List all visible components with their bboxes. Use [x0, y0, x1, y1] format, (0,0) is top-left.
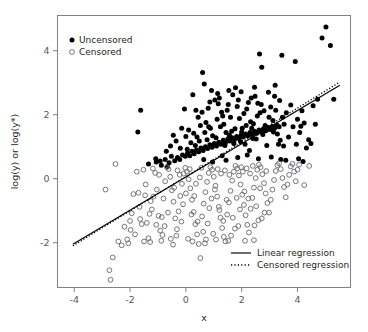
uncensored-point	[249, 96, 254, 101]
uncensored-point	[298, 124, 303, 129]
uncensored-point	[259, 65, 264, 70]
uncensored-point	[215, 117, 220, 122]
uncensored-point	[293, 59, 298, 64]
uncensored-point	[203, 120, 208, 125]
uncensored-point	[193, 108, 198, 113]
uncensored-point	[179, 126, 184, 131]
uncensored-point	[226, 88, 231, 93]
uncensored-point	[182, 106, 187, 111]
uncensored-point	[164, 149, 169, 154]
uncensored-point	[200, 70, 205, 75]
uncensored-point	[220, 113, 225, 118]
uncensored-point	[187, 153, 192, 158]
legend-line-label: Linear regression	[257, 248, 335, 258]
scatter-plot-figure: -4-2024420-2 UncensoredCensored Linear r…	[0, 0, 368, 332]
x-tick-label: -2	[125, 294, 134, 305]
uncensored-point	[291, 124, 296, 129]
uncensored-point	[225, 108, 230, 113]
uncensored-point	[245, 153, 250, 158]
uncensored-point	[279, 53, 284, 58]
uncensored-point	[193, 143, 198, 148]
uncensored-point	[216, 101, 221, 106]
uncensored-point	[168, 144, 173, 149]
x-tick-label: -4	[70, 294, 79, 305]
uncensored-point	[201, 157, 206, 162]
uncensored-point	[215, 91, 220, 96]
uncensored-point	[254, 137, 259, 142]
uncensored-point	[297, 130, 302, 135]
uncensored-point	[331, 97, 336, 102]
y-tick-label: 2	[43, 109, 49, 120]
uncensored-point	[163, 157, 168, 162]
uncensored-point	[257, 51, 262, 56]
y-tick-label: 4	[43, 45, 49, 56]
y-tick-label: -2	[40, 237, 49, 248]
uncensored-point	[214, 135, 219, 140]
uncensored-point	[209, 88, 214, 93]
x-tick-label: 0	[183, 294, 189, 305]
uncensored-point	[217, 96, 222, 101]
uncensored-point	[178, 146, 183, 151]
uncensored-point	[266, 90, 271, 95]
uncensored-point	[224, 158, 229, 163]
uncensored-point	[273, 108, 278, 113]
uncensored-point	[282, 122, 287, 127]
uncensored-point	[269, 154, 274, 159]
uncensored-point	[229, 129, 234, 134]
uncensored-point	[135, 129, 140, 134]
plot-canvas: -4-2024420-2 UncensoredCensored Linear r…	[0, 0, 368, 332]
uncensored-point	[202, 130, 207, 135]
uncensored-point	[249, 126, 254, 131]
uncensored-point	[207, 99, 212, 104]
uncensored-point	[202, 81, 207, 86]
uncensored-point	[277, 124, 282, 129]
x-tick-label: 2	[239, 294, 245, 305]
uncensored-point	[200, 110, 205, 115]
uncensored-point	[206, 106, 211, 111]
uncensored-point	[212, 97, 217, 102]
uncensored-point	[273, 83, 278, 88]
uncensored-point	[226, 102, 231, 107]
uncensored-point	[294, 142, 299, 147]
uncensored-point	[230, 92, 235, 97]
legend-marker-label: Censored	[79, 47, 121, 57]
uncensored-point	[264, 143, 269, 148]
uncensored-point	[237, 116, 242, 121]
uncensored-point	[174, 138, 179, 143]
uncensored-point	[281, 144, 286, 149]
uncensored-point	[267, 115, 272, 120]
uncensored-point	[320, 35, 325, 40]
uncensored-point	[188, 140, 193, 145]
uncensored-point	[159, 163, 164, 168]
uncensored-point	[169, 154, 174, 159]
uncensored-point	[183, 134, 188, 139]
uncensored-point	[241, 111, 246, 116]
uncensored-point	[258, 110, 263, 115]
uncensored-point	[138, 108, 143, 113]
uncensored-point	[218, 124, 223, 129]
uncensored-point	[198, 123, 203, 128]
uncensored-point	[228, 115, 233, 120]
uncensored-point	[247, 148, 252, 153]
uncensored-point	[283, 158, 288, 163]
uncensored-point	[185, 147, 190, 152]
uncensored-point	[271, 129, 276, 134]
uncensored-point	[191, 131, 196, 136]
uncensored-point	[244, 106, 249, 111]
uncensored-point	[256, 156, 261, 161]
legend-uncensored-marker-icon	[70, 38, 75, 43]
uncensored-point	[205, 137, 210, 142]
uncensored-point	[304, 145, 309, 150]
uncensored-point	[251, 121, 256, 126]
uncensored-point	[233, 85, 238, 90]
x-axis-title: x	[201, 312, 207, 323]
uncensored-point	[235, 104, 240, 109]
uncensored-point	[171, 133, 176, 138]
uncensored-point	[240, 126, 245, 131]
uncensored-point	[239, 89, 244, 94]
uncensored-point	[311, 103, 316, 108]
uncensored-point	[328, 43, 333, 48]
uncensored-point	[206, 124, 211, 129]
legend-marker-label: Uncensored	[79, 35, 132, 45]
legend-line-label: Censored regression	[257, 260, 349, 270]
